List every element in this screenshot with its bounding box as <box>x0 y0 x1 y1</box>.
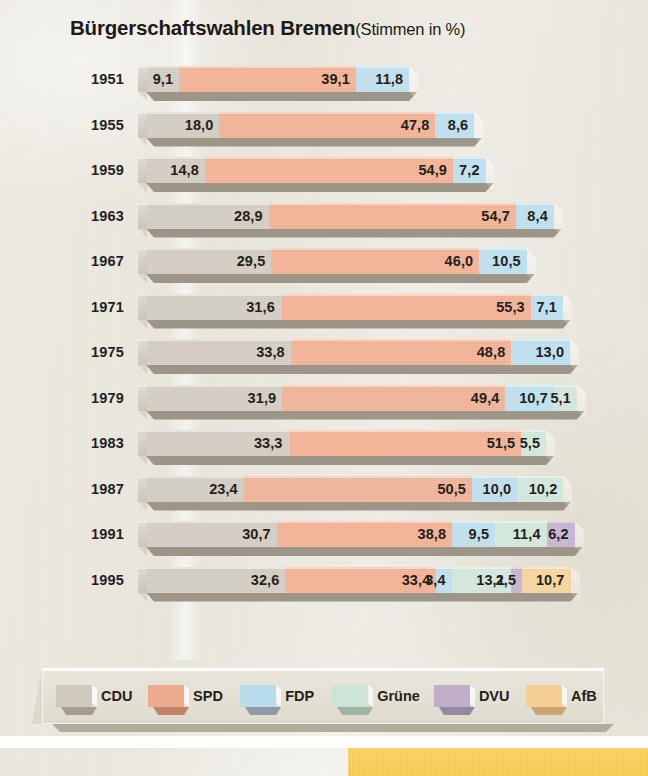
bar-3d-shadow <box>146 138 482 147</box>
segment-value-label: 49,4 <box>471 385 500 411</box>
year-label: 1951 <box>60 71 124 87</box>
legend-label-spd: SPD <box>193 688 223 704</box>
year-label: 1995 <box>60 572 124 588</box>
bar-segment-fdp: 3,4 <box>436 567 451 593</box>
year-label: 1987 <box>60 481 124 497</box>
stacked-bar: 29,546,010,5 <box>138 248 527 274</box>
segment-value-label: 48,8 <box>477 339 506 365</box>
chart-row: 196328,954,78,4 <box>0 197 648 243</box>
bar-segment-grune: 11,4 <box>495 521 547 547</box>
stacked-bar: 28,954,78,4 <box>138 203 554 229</box>
segment-value-label: 8,6 <box>448 112 468 138</box>
segment-value-label: 13,0 <box>535 339 564 365</box>
bar-3d-shadow <box>146 456 554 465</box>
legend-swatch-shadow <box>153 707 189 715</box>
segment-value-label: 11,8 <box>375 66 403 92</box>
bar-segment-spd: 49,4 <box>282 385 505 411</box>
bar-segment-fdp: 11,8 <box>356 66 409 92</box>
legend-swatch-side <box>92 685 97 707</box>
stacked-bar: 32,633,43,413,12,510,7 <box>138 567 571 593</box>
bar-3d-shadow <box>146 411 585 420</box>
bar-segment-spd: 39,1 <box>179 66 356 92</box>
stacked-bar: 18,047,88,6 <box>138 112 474 138</box>
year-label: 1959 <box>60 162 124 178</box>
legend-swatch-face <box>526 685 562 707</box>
bar-segment-spd: 50,5 <box>244 476 472 502</box>
bar-segment-fdp: 10,0 <box>472 476 517 502</box>
chart-row: 198723,450,510,010,2 <box>0 470 648 516</box>
legend-label-fdp: FDP <box>285 688 314 704</box>
bar-segment-spd: 54,9 <box>205 157 453 183</box>
bottom-white-gap <box>0 736 648 748</box>
segment-value-label: 9,1 <box>153 66 173 92</box>
segment-value-label: 6,2 <box>548 521 568 547</box>
legend-swatch-side <box>562 685 567 707</box>
yellow-band-texture <box>348 748 648 776</box>
bar-3d-shadow <box>146 593 579 602</box>
legend-swatch-shadow <box>245 707 281 715</box>
legend-swatch-side <box>368 685 373 707</box>
bar-segment-spd: 38,8 <box>277 521 452 547</box>
chart-row: 195518,047,88,6 <box>0 106 648 152</box>
bar-segment-fdp: 10,5 <box>479 248 526 274</box>
bar-3d-shadow <box>146 320 571 329</box>
legend-swatch-shadow <box>531 707 567 715</box>
segment-value-label: 8,4 <box>527 203 547 229</box>
bar-3d-shadow <box>146 229 562 238</box>
segment-value-label: 7,2 <box>459 157 479 183</box>
segment-value-label: 31,6 <box>246 294 275 320</box>
bar-3d-shadow <box>146 502 571 511</box>
bar-segment-spd: 54,7 <box>269 203 516 229</box>
bar-segment-cdu: 18,0 <box>138 112 219 138</box>
bar-segment-cdu: 9,1 <box>138 66 179 92</box>
bar-3d-shadow <box>146 547 583 556</box>
chart-title-main: Bürgerschaftswahlen Bremen <box>70 16 355 39</box>
segment-value-label: 31,9 <box>248 385 277 411</box>
segment-value-label: 51,5 <box>487 430 516 456</box>
segment-value-label: 33,3 <box>254 430 283 456</box>
legend-label-dvu: DVU <box>479 688 510 704</box>
segment-value-label: 39,1 <box>321 66 350 92</box>
segment-texture <box>281 294 531 320</box>
legend-left-bevel <box>32 668 42 724</box>
legend-item-cdu: CDU <box>42 685 134 707</box>
legend-swatch-face <box>56 685 92 707</box>
legend-label-gruene: Grüne <box>377 688 420 704</box>
legend-swatch-side <box>276 685 281 707</box>
segment-value-label: 47,8 <box>401 112 430 138</box>
bar-segment-spd: 46,0 <box>271 248 479 274</box>
chart-row: 199130,738,89,511,46,2 <box>0 515 648 561</box>
year-label: 1955 <box>60 117 124 133</box>
bar-3d-shadow <box>146 92 417 101</box>
legend-swatch-side <box>184 685 189 707</box>
year-label: 1967 <box>60 253 124 269</box>
legend-swatch-cdu <box>56 685 92 707</box>
legend-swatch-face <box>434 685 470 707</box>
stacked-bar: 33,351,55,5 <box>138 430 546 456</box>
legend-label-afb: AfB <box>571 688 597 704</box>
segment-value-label: 23,4 <box>209 476 238 502</box>
chart-legend: CDUSPDFDPGrüneDVUAfB <box>42 668 604 724</box>
chart-row: 197931,949,410,75,1 <box>0 379 648 425</box>
bar-segment-cdu: 31,6 <box>138 294 281 320</box>
bar-segment-cdu: 30,7 <box>138 521 277 547</box>
bar-segment-fdp: 10,7 <box>505 385 553 411</box>
segment-value-label: 10,7 <box>536 567 565 593</box>
segment-value-label: 54,9 <box>418 157 447 183</box>
legend-swatch-fdp <box>240 685 276 707</box>
legend-swatch-face <box>332 685 368 707</box>
segment-value-label: 32,6 <box>251 567 280 593</box>
bar-segment-spd: 47,8 <box>219 112 435 138</box>
legend-items: CDUSPDFDPGrüneDVUAfB <box>42 668 604 724</box>
segment-value-label: 18,0 <box>185 112 214 138</box>
segment-value-label: 10,5 <box>492 248 521 274</box>
bar-segment-dvu: 2,5 <box>511 567 522 593</box>
bar-segment-fdp: 7,1 <box>531 294 563 320</box>
bar-3d-shadow <box>146 183 494 192</box>
bar-segment-cdu: 23,4 <box>138 476 244 502</box>
bar-segment-cdu: 33,8 <box>138 339 291 365</box>
legend-label-cdu: CDU <box>101 688 132 704</box>
legend-swatch-shadow <box>337 707 373 715</box>
segment-value-label: 38,8 <box>418 521 447 547</box>
bar-segment-fdp: 9,5 <box>452 521 495 547</box>
